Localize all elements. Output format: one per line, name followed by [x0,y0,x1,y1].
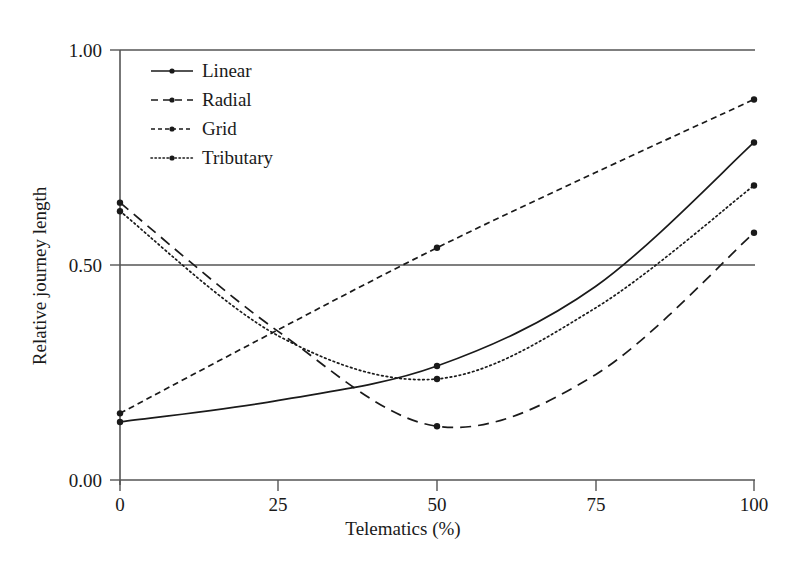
data-point-radial-0 [117,199,123,205]
data-point-linear-50 [434,363,440,369]
data-point-grid-50 [434,245,440,251]
data-point-grid-0 [117,410,123,416]
y-tick-label-1.00: 1.00 [30,40,102,62]
legend-label-radial: Radial [202,89,252,111]
x-tick-label-50: 50 [428,494,447,516]
legend-swatch-linear [150,64,194,78]
y-tick-label-0.00: 0.00 [30,470,102,492]
x-tick-label-0: 0 [115,494,125,516]
legend-label-grid: Grid [202,118,237,140]
y-axis-title: Relative journey length [29,176,51,376]
plot-area [0,0,806,561]
legend-swatch-tributary [150,151,194,165]
series-line-tributary [120,185,754,379]
data-point-tributary-100 [751,182,757,188]
data-point-tributary-0 [117,208,123,214]
x-axis-title: Telematics (%) [0,518,806,540]
legend-item-grid: Grid [150,118,237,140]
x-tick-label-100: 100 [740,494,769,516]
legend-label-tributary: Tributary [202,147,273,169]
series-line-radial [120,203,754,428]
legend-swatch-grid [150,122,194,136]
legend-item-radial: Radial [150,89,252,111]
data-point-tributary-50 [434,376,440,382]
x-tick-label-75: 75 [587,494,606,516]
data-point-linear-100 [751,139,757,145]
legend-label-linear: Linear [202,60,252,82]
data-point-linear-0 [117,419,123,425]
chart-figure: 1.00 0.50 0.00 0 25 50 75 100 Telematics… [0,0,806,561]
x-tick-label-25: 25 [269,494,288,516]
legend-item-linear: Linear [150,60,252,82]
data-point-radial-50 [434,423,440,429]
data-point-radial-100 [751,230,757,236]
legend-item-tributary: Tributary [150,147,273,169]
data-point-grid-100 [751,96,757,102]
legend-swatch-radial [150,93,194,107]
